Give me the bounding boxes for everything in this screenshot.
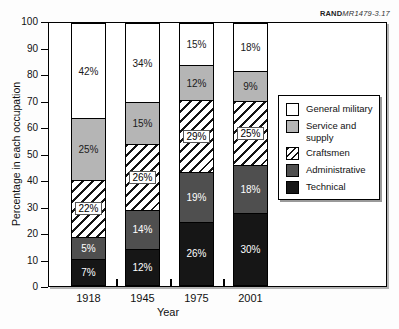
legend: General militaryService and supplyCrafts…	[278, 95, 380, 200]
legend-label: General military	[306, 103, 373, 115]
segment-label: 30%	[240, 244, 260, 255]
segment-technical: 30%	[233, 213, 268, 286]
legend-swatch-administrative	[286, 164, 299, 177]
legend-label: Administrative	[306, 164, 366, 176]
segment-service-and-supply: 12%	[179, 65, 214, 102]
segment-label: 18%	[240, 42, 260, 53]
segment-label: 5%	[81, 243, 95, 254]
segment-label: 15%	[186, 39, 206, 50]
segment-technical: 26%	[179, 222, 214, 286]
segment-label: 22%	[75, 202, 101, 215]
segment-label: 26%	[129, 171, 155, 184]
report-number: MR1479-3.17	[342, 9, 390, 18]
x-category-label: 1945	[121, 292, 165, 304]
segment-craftsmen: 25%	[233, 101, 268, 166]
segment-general-military: 15%	[179, 23, 214, 66]
segment-label: 25%	[78, 144, 98, 155]
segment-label: 18%	[240, 184, 260, 195]
y-tick	[41, 181, 48, 182]
y-tick-label: 0	[0, 281, 38, 293]
legend-item-service-and-supply: Service and supply	[286, 120, 374, 143]
x-tick	[170, 279, 172, 286]
y-tick	[41, 208, 48, 209]
segment-label: 12%	[132, 262, 152, 273]
legend-item-general-military: General military	[286, 103, 374, 116]
x-tick	[223, 279, 225, 286]
source-label: RANDMR1479-3.17	[320, 9, 390, 18]
legend-label: Craftsmen	[306, 147, 350, 159]
segment-service-and-supply: 25%	[71, 118, 106, 181]
segment-label: 26%	[186, 248, 206, 259]
segment-label: 25%	[237, 127, 263, 140]
x-category-label: 1975	[175, 292, 219, 304]
y-tick	[41, 128, 48, 129]
bar-1975: 15%12%29%19%26%	[179, 23, 214, 286]
y-tick-label: 70	[0, 96, 38, 108]
segment-administrative: 5%	[71, 237, 106, 260]
x-category-label: 2001	[229, 292, 273, 304]
y-tick-label: 90	[0, 43, 38, 55]
legend-swatch-general-military	[286, 103, 299, 116]
legend-item-craftsmen: Craftsmen	[286, 147, 374, 160]
segment-label: 9%	[243, 81, 257, 92]
y-tick-label: 50	[0, 149, 38, 161]
segment-label: 19%	[186, 192, 206, 203]
legend-swatch-craftsmen	[286, 147, 299, 160]
segment-craftsmen: 26%	[125, 144, 160, 210]
legend-label: Service and supply	[306, 120, 374, 143]
y-tick	[41, 22, 48, 23]
legend-swatch-technical	[286, 181, 299, 194]
segment-craftsmen: 29%	[179, 100, 214, 172]
segment-general-military: 42%	[71, 23, 106, 119]
x-tick	[116, 279, 118, 286]
segment-label: 7%	[81, 267, 95, 278]
segment-label: 12%	[186, 78, 206, 89]
segment-general-military: 18%	[233, 23, 268, 72]
segment-service-and-supply: 15%	[125, 102, 160, 145]
segment-technical: 7%	[71, 259, 106, 286]
legend-label: Technical	[306, 181, 346, 193]
y-tick-label: 10	[0, 255, 38, 267]
y-tick-label: 80	[0, 69, 38, 81]
segment-label: 34%	[132, 58, 152, 69]
y-tick-label: 60	[0, 122, 38, 134]
segment-administrative: 14%	[125, 210, 160, 251]
y-tick-label: 100	[0, 16, 38, 28]
y-tick	[41, 49, 48, 50]
segment-technical: 12%	[125, 249, 160, 286]
x-axis-title: Year	[157, 306, 179, 318]
segment-administrative: 18%	[233, 165, 268, 214]
y-tick	[41, 155, 48, 156]
y-tick-label: 20	[0, 228, 38, 240]
legend-swatch-service-and-supply	[286, 120, 299, 133]
segment-service-and-supply: 9%	[233, 71, 268, 102]
segment-label: 42%	[78, 66, 98, 77]
y-tick	[41, 234, 48, 235]
segment-label: 29%	[183, 130, 209, 143]
segment-craftsmen: 22%	[71, 180, 106, 239]
y-tick	[41, 261, 48, 262]
bar-2001: 18%9%25%18%30%	[233, 23, 268, 286]
y-tick	[41, 75, 48, 76]
rand-brand: RAND	[320, 9, 342, 18]
y-tick	[41, 287, 48, 288]
segment-administrative: 19%	[179, 172, 214, 223]
segment-general-military: 34%	[125, 23, 160, 103]
bar-1918: 42%25%22%5%7%	[71, 23, 106, 286]
segment-label: 15%	[132, 118, 152, 129]
segment-label: 14%	[132, 224, 152, 235]
y-tick-label: 40	[0, 175, 38, 187]
x-category-label: 1918	[67, 292, 111, 304]
bar-1945: 34%15%26%14%12%	[125, 23, 160, 286]
legend-item-technical: Technical	[286, 181, 374, 194]
y-tick-label: 30	[0, 202, 38, 214]
chart-container: RANDMR1479-3.17 Percentage in each occup…	[0, 0, 399, 329]
legend-item-administrative: Administrative	[286, 164, 374, 177]
y-tick	[41, 102, 48, 103]
